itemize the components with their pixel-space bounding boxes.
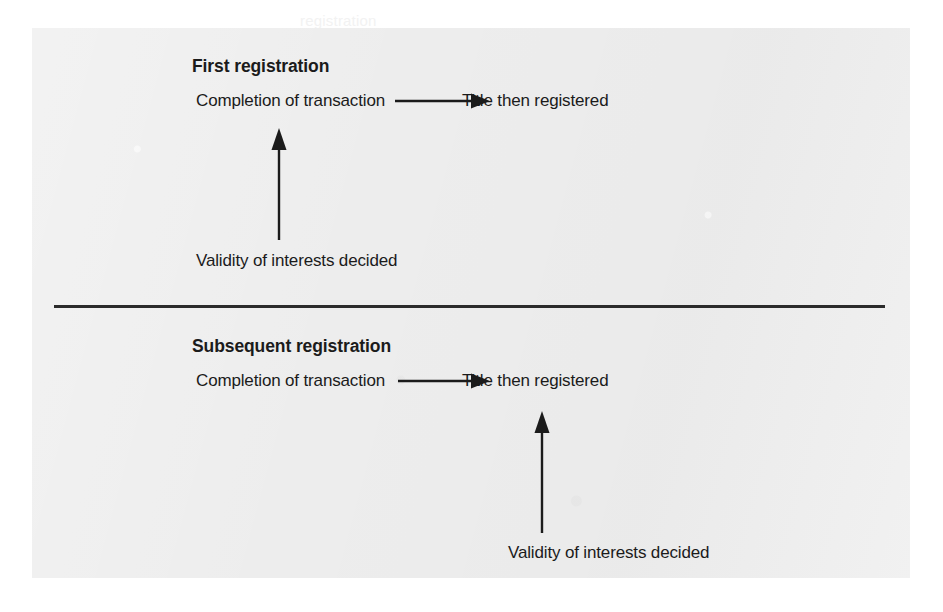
subsequent-registration-source-label: Completion of transaction (196, 372, 385, 389)
first-registration-vertical-label: Validity of interests decided (196, 252, 397, 269)
subsequent-registration-vertical-label: Validity of interests decided (508, 544, 709, 561)
figure-root: registration interests and their priorit… (0, 0, 943, 612)
page-bleed-line: registration (300, 12, 377, 29)
first-registration-heading: First registration (192, 58, 329, 76)
first-registration-target-label: Title then registered (462, 92, 608, 109)
first-registration-source-label: Completion of transaction (196, 92, 385, 109)
arrow-up-icon (268, 128, 290, 240)
diagram-panel: First registration Completion of transac… (32, 28, 910, 578)
subsequent-registration-target-label: Title then registered (462, 372, 608, 389)
section-divider (54, 305, 885, 308)
subsequent-registration-heading: Subsequent registration (192, 338, 391, 356)
arrow-up-icon (531, 411, 553, 533)
